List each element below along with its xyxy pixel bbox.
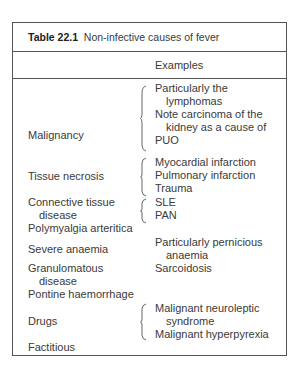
examples-malignancy: Particularly the lymphomas Note carcinom… (155, 82, 266, 147)
cause-granulomatous-disease: Granulomatous disease (28, 262, 103, 288)
cause-drugs: Drugs (28, 315, 57, 328)
examples-granulomatous-disease: Sarcoidosis (155, 262, 212, 275)
cause-pontine-haemorrhage: Pontine haemorrhage (28, 288, 134, 301)
table-caption: Table 22.1 Non-infective causes of fever (28, 31, 219, 43)
cause-factitious: Factitious (28, 341, 75, 354)
cause-polymyalgia-arteritica: Polymyalgia arteritica (28, 222, 133, 235)
brace-icon (140, 198, 147, 224)
examples-connective-tissue-disease: SLE PAN (155, 196, 177, 222)
table-number: Table 22.1 (28, 31, 78, 43)
cause-connective-tissue-disease: Connective tissue disease (28, 196, 115, 222)
cause-tissue-necrosis: Tissue necrosis (28, 170, 104, 183)
table-title-row: Table 22.1 Non-infective causes of fever (13, 23, 286, 52)
brace-icon (140, 157, 147, 197)
cause-malignancy: Malignancy (28, 129, 84, 142)
table-header-row: Examples (13, 52, 286, 79)
table-caption-text: Non-infective causes of fever (84, 31, 219, 43)
examples-drugs: Malignant neuroleptic syndrome Malignant… (155, 302, 269, 341)
examples-tissue-necrosis: Myocardial infarction Pulmonary infarcti… (155, 156, 256, 195)
causes-of-fever-table: Table 22.1 Non-infective causes of fever… (12, 22, 287, 356)
examples-severe-anaemia: Particularly pernicious anaemia (155, 236, 263, 262)
brace-icon (140, 303, 147, 341)
brace-icon (140, 85, 147, 152)
cause-severe-anaemia: Severe anaemia (28, 243, 108, 256)
column-header-examples: Examples (155, 59, 203, 71)
